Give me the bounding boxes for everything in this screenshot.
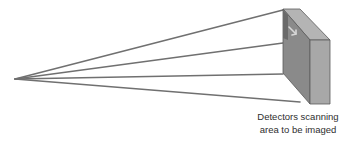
detector-block: [283, 9, 330, 104]
ray-4: [15, 79, 300, 102]
detector-caption: Detectors scanning area to be imaged: [252, 110, 344, 136]
detector-side-face: [310, 40, 330, 104]
ray-1: [15, 10, 283, 79]
ray-2: [15, 43, 283, 79]
caption-line-2: area to be imaged: [252, 123, 344, 136]
scan-strip: [283, 10, 288, 40]
ray-3: [15, 74, 283, 79]
caption-line-1: Detectors scanning: [252, 110, 344, 123]
rays: [15, 10, 300, 102]
